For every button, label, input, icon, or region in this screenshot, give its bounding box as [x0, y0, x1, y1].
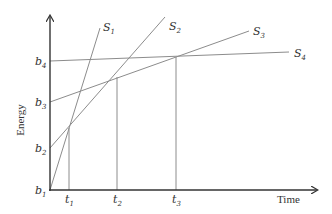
line-s3: [50, 31, 249, 102]
y-tick-b1: b1: [35, 184, 47, 199]
y-tick-b4: b4: [35, 55, 47, 70]
label-s3: S3: [253, 25, 266, 40]
y-tick-b3: b3: [35, 96, 47, 111]
x-axis-label: Time: [277, 193, 300, 205]
line-s2: [50, 17, 165, 148]
x-tick-t1: t1: [65, 193, 74, 208]
y-axis-label: Energy: [14, 104, 26, 136]
energy-time-diagram: b1 b2 b3 b4 t1 t2 t3 S1 S2 S3 S4 Time En…: [0, 0, 332, 214]
label-s1: S1: [103, 21, 115, 36]
y-tick-b2: b2: [35, 142, 47, 157]
label-s4: S4: [294, 47, 306, 62]
x-tick-t2: t2: [113, 193, 122, 208]
label-s2: S2: [169, 20, 182, 35]
x-tick-t3: t3: [172, 193, 181, 208]
line-s1: [50, 28, 100, 190]
